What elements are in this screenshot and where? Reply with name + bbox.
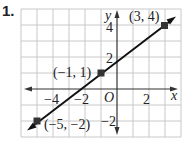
point-neg5-neg2 (34, 118, 41, 125)
point-label-3-4: (3, 4) (129, 9, 160, 25)
x-tick-2: 2 (143, 92, 150, 107)
y-tick-neg2: −2 (101, 114, 116, 129)
y-tick-4: 4 (106, 20, 113, 35)
x-tick-neg4: −4 (44, 92, 59, 107)
point-3-4 (161, 22, 168, 29)
point-label-neg1-1: (−1, 1) (53, 65, 92, 81)
origin-label: O (104, 90, 114, 105)
x-axis-label: x (170, 88, 178, 103)
point-label-neg5-neg2: (−5, −2) (44, 117, 90, 133)
y-tick-2: 2 (106, 51, 113, 66)
x-tick-neg2: −2 (74, 92, 89, 107)
coordinate-graph: y x O −4 −2 2 4 2 −2 (3, 4) (−1, 1) (−5,… (0, 0, 194, 145)
point-neg1-1 (98, 70, 105, 77)
